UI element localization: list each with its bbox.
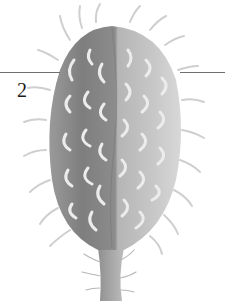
- figure-number-label: 2: [17, 80, 27, 100]
- leader-line-left: [0, 72, 60, 73]
- caption-text-cutoff: [14, 293, 214, 301]
- spiny-fruit-illustration: [0, 0, 225, 301]
- leader-line-right: [180, 72, 225, 73]
- illustration-plate: 2: [0, 0, 225, 301]
